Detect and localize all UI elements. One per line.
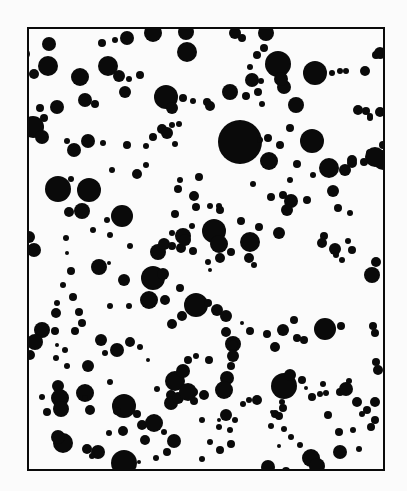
dot — [343, 68, 349, 74]
dot — [71, 327, 79, 335]
dot — [149, 133, 157, 141]
dot — [372, 358, 380, 366]
dot-pattern-svg — [0, 0, 407, 491]
dot — [64, 138, 70, 144]
dot — [288, 434, 294, 440]
dot — [238, 34, 246, 42]
dot — [163, 448, 171, 456]
dot — [337, 322, 345, 330]
dot — [51, 327, 59, 335]
dot — [136, 71, 144, 79]
dot — [215, 381, 233, 399]
dot — [258, 78, 264, 84]
dot — [320, 381, 326, 387]
dot — [254, 88, 262, 96]
dot — [270, 410, 274, 414]
dot — [356, 446, 362, 452]
dot — [89, 453, 95, 459]
dot — [304, 386, 308, 390]
dot — [364, 267, 380, 283]
dot — [320, 232, 328, 240]
dot — [60, 282, 66, 288]
dot — [259, 101, 265, 107]
dot — [78, 319, 86, 327]
dot — [240, 321, 244, 325]
dot — [207, 439, 213, 445]
dot — [369, 322, 377, 330]
dot — [64, 207, 74, 217]
dot — [339, 257, 345, 263]
dot — [104, 217, 110, 223]
dot — [253, 51, 261, 59]
dot — [172, 141, 178, 147]
dot — [112, 37, 118, 43]
dot — [333, 445, 347, 459]
dot — [323, 390, 329, 396]
dot — [365, 147, 385, 167]
dot — [279, 404, 287, 412]
dot — [184, 356, 192, 364]
dot — [333, 252, 339, 258]
dot — [310, 172, 316, 178]
dot — [352, 397, 362, 407]
dot — [119, 86, 131, 98]
dot — [277, 444, 281, 448]
dot — [298, 376, 306, 384]
dot — [91, 259, 107, 275]
dot — [297, 442, 303, 448]
dot — [317, 391, 323, 397]
dot — [179, 234, 191, 246]
dot — [75, 308, 83, 316]
dot — [288, 97, 304, 113]
dot — [227, 427, 233, 433]
dot — [228, 340, 238, 350]
dot — [360, 158, 368, 166]
dot — [29, 69, 39, 79]
dot — [189, 247, 197, 255]
dot — [319, 158, 339, 178]
dot — [153, 455, 159, 461]
dot — [53, 401, 69, 417]
dot — [216, 446, 224, 454]
dot — [64, 363, 70, 369]
dot — [54, 300, 60, 306]
dot — [263, 330, 271, 338]
dot — [276, 141, 284, 149]
dot — [118, 426, 128, 436]
dot-pattern-figure — [0, 0, 407, 491]
dot — [176, 284, 184, 292]
dot — [45, 176, 71, 202]
dot — [217, 418, 221, 422]
dot — [38, 56, 58, 76]
dot — [167, 319, 177, 329]
dot — [107, 261, 111, 265]
dot — [227, 248, 235, 256]
dot — [177, 42, 197, 62]
dot — [51, 308, 61, 318]
dot — [176, 364, 190, 378]
dot — [264, 134, 272, 142]
dot — [345, 238, 351, 244]
dot — [371, 329, 379, 337]
dot — [367, 423, 375, 431]
dot — [327, 185, 339, 197]
dot — [346, 378, 352, 384]
dot — [53, 355, 59, 361]
dot — [126, 303, 132, 309]
dot — [367, 113, 373, 119]
dot — [140, 435, 150, 445]
dot — [373, 365, 383, 375]
dot — [199, 390, 209, 400]
dot — [246, 397, 252, 403]
dot — [207, 203, 213, 209]
dot — [308, 393, 316, 401]
dot — [205, 356, 213, 364]
dot — [177, 177, 183, 183]
dot — [77, 178, 101, 202]
dot — [67, 143, 81, 157]
dot — [274, 72, 288, 86]
dot — [133, 410, 141, 418]
dot — [171, 210, 179, 218]
dot — [140, 291, 158, 309]
dot — [273, 227, 285, 239]
